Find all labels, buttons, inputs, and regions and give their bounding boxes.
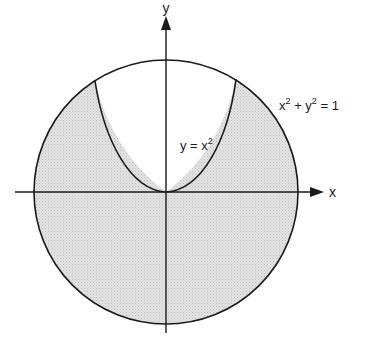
x-axis-arrow-icon bbox=[310, 187, 324, 197]
x-axis-label: x bbox=[329, 184, 336, 200]
shaded-region bbox=[0, 0, 372, 348]
y-axis-label: y bbox=[163, 0, 170, 16]
circle-equation-label: x2 + y2 = 1 bbox=[279, 96, 339, 113]
diagram-canvas: y x x2 + y2 = 1 y = x2 bbox=[0, 0, 372, 348]
y-axis-arrow-icon bbox=[161, 16, 171, 30]
